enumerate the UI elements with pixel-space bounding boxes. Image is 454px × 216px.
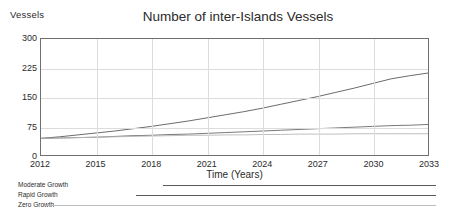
plot-area [40,38,429,156]
gridline-horizontal [41,98,428,99]
chart-legend: Moderate GrowthRapid GrowthZero Growth [0,181,454,213]
x-axis-label: Time (Years) [40,169,429,180]
y-axis-tick: 225 [1,64,37,73]
chart-title: Number of inter-Islands Vessels [0,9,454,24]
gridline-horizontal [41,128,428,129]
legend-line-swatch [45,205,435,206]
x-axis-tick: 2024 [252,159,272,169]
y-axis-tick: 300 [1,34,37,43]
chart-screenshot: Vessels Number of inter-Islands Vessels … [0,0,454,216]
legend-label: Rapid Growth [18,191,58,199]
series-lines [41,39,428,155]
legend-item: Moderate Growth [0,181,454,190]
legend-label: Moderate Growth [18,181,68,189]
x-axis-tick: 2033 [419,159,439,169]
legend-item: Rapid Growth [0,191,454,200]
gridline-vertical [374,39,375,155]
gridline-vertical [208,39,209,155]
gridline-vertical [97,39,98,155]
legend-line-swatch [163,185,435,186]
series-line [41,134,428,139]
x-axis-tick: 2027 [308,159,328,169]
x-axis-tick: 2015 [86,159,106,169]
y-axis-tick: 150 [1,93,37,102]
x-axis-tick: 2030 [363,159,383,169]
gridline-vertical [319,39,320,155]
y-axis-tick: 75 [1,123,37,132]
gridline-vertical [263,39,264,155]
legend-item: Zero Growth [0,201,454,210]
gridline-horizontal [41,69,428,70]
legend-line-swatch [136,195,436,196]
x-axis-tick: 2012 [30,159,50,169]
x-axis-tick: 2021 [197,159,217,169]
y-axis-tick-labels: 075150225300 [0,38,37,156]
gridline-vertical [152,39,153,155]
series-line [41,73,428,138]
x-axis-tick: 2018 [141,159,161,169]
plot-inner [41,39,428,155]
